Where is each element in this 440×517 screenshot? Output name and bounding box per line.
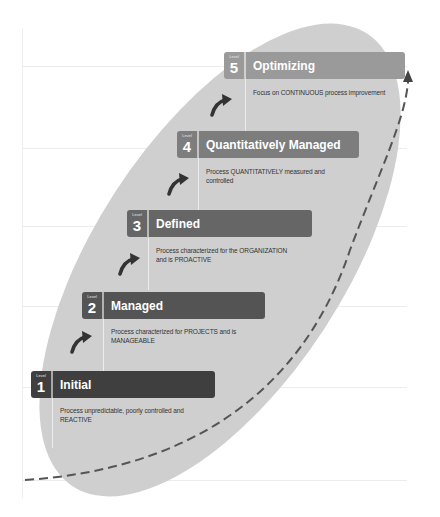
level-divider	[198, 158, 199, 210]
level-divider	[148, 238, 149, 290]
level-title: Quantitatively Managed	[199, 131, 341, 158]
level-3-number-box: Level 3	[127, 210, 149, 237]
level-1-number-box: Level 1	[31, 371, 53, 398]
curved-arrow-icon	[68, 330, 94, 354]
level-4-number-box: Level 4	[177, 131, 199, 158]
level-divider	[103, 319, 104, 371]
level-title: Defined	[149, 210, 200, 237]
level-number: 2	[88, 299, 96, 317]
level-title: Optimizing	[246, 52, 315, 79]
curved-arrow-icon	[208, 93, 234, 117]
curved-arrow-icon	[116, 252, 142, 276]
level-title: Managed	[104, 292, 163, 319]
level-description: Process characterized for PROJECTS and i…	[111, 327, 246, 345]
level-title: Initial	[53, 371, 91, 398]
level-2-bar: Level 2 Managed	[82, 292, 265, 319]
level-description: Process unpredictable, poorly controlled…	[60, 406, 195, 424]
level-number: 1	[37, 378, 45, 396]
level-description: Focus on CONTINUOUS process improvement	[253, 88, 388, 97]
level-number: 3	[133, 217, 141, 235]
level-number: 5	[230, 59, 238, 77]
level-description: Process characterized for the ORGANIZATI…	[156, 246, 291, 264]
curved-arrow-icon	[165, 172, 191, 196]
level-divider	[245, 79, 246, 131]
level-number: 4	[183, 138, 191, 156]
level-1-bar: Level 1 Initial	[31, 371, 215, 398]
level-5-number-box: Level 5	[224, 52, 246, 79]
level-description: Process QUANTITATIVELY measured and cont…	[206, 167, 341, 185]
level-4-bar: Level 4 Quantitatively Managed	[177, 131, 359, 158]
level-3-bar: Level 3 Defined	[127, 210, 312, 237]
level-5-bar: Level 5 Optimizing	[224, 52, 405, 79]
level-2-number-box: Level 2	[82, 292, 104, 319]
level-divider	[52, 398, 53, 448]
